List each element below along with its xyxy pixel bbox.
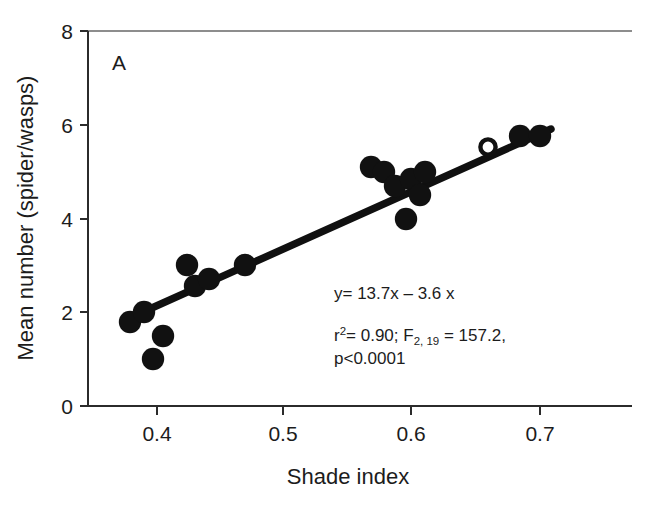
x-tick-label-04: 0.4	[142, 422, 172, 445]
data-point	[395, 208, 417, 230]
y-tick-label-8: 8	[61, 20, 73, 43]
panel-label: A	[112, 51, 126, 74]
y-tick-label-2: 2	[61, 301, 73, 324]
x-tick-label-05: 0.5	[268, 422, 297, 445]
y-tick-label-6: 6	[61, 114, 73, 137]
f-symbol: F	[403, 326, 413, 345]
figure-container: 8 6 4 2 0 0.4 0.5 0.6 0.7 Shade index Me…	[0, 0, 648, 515]
data-point	[198, 268, 220, 290]
annotation-stats-line2: p<0.0001	[334, 349, 405, 368]
data-point	[152, 325, 174, 347]
annotation-stats-line1: r2= 0.90; F2, 19 = 157.2,	[334, 325, 506, 347]
r-value: = 0.90;	[346, 326, 403, 345]
data-point	[133, 301, 155, 323]
annotation-equation: y= 13.7x – 3.6 x	[334, 284, 455, 303]
data-point	[409, 184, 431, 206]
y-tick-label-0: 0	[61, 395, 73, 418]
data-point	[234, 254, 256, 276]
x-tick-label-07: 0.7	[525, 422, 554, 445]
scatter-plot: 8 6 4 2 0 0.4 0.5 0.6 0.7 Shade index Me…	[0, 0, 648, 515]
y-tick-label-4: 4	[61, 208, 73, 231]
data-point	[509, 125, 531, 147]
data-series-open	[480, 139, 495, 154]
f-value: = 157.2,	[439, 326, 506, 345]
y-axis-title: Mean number (spider/wasps)	[13, 76, 38, 361]
x-tick-label-06: 0.6	[396, 422, 425, 445]
data-point	[529, 125, 551, 147]
f-subscript: 2, 19	[414, 335, 440, 347]
data-point	[142, 348, 164, 370]
x-axis-title: Shade index	[287, 464, 409, 489]
data-point	[176, 254, 198, 276]
data-point-open	[480, 139, 495, 154]
data-point	[414, 161, 436, 183]
